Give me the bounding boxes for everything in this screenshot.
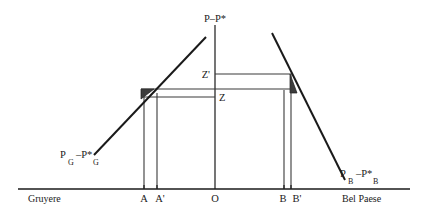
axis-title-label: P–P* xyxy=(204,13,226,24)
point-label-z: Z xyxy=(219,92,225,103)
region-label-bel-paese: Bel Paese xyxy=(342,193,382,204)
construction-lines xyxy=(141,74,291,189)
curve-label-belpaese-mid: –P* xyxy=(355,168,372,179)
curve-label-belpaese-sub1: B xyxy=(348,177,353,186)
curve-label-gruyere-sub2: G xyxy=(93,158,99,167)
curve-label-belpaese-sub2: B xyxy=(373,177,378,186)
curve-label-belpaese-main: P xyxy=(340,168,346,179)
curve-gruyere-line xyxy=(94,37,206,155)
point-label-z-prime: Z' xyxy=(202,69,210,80)
tick-label-B: B xyxy=(279,193,286,204)
curve-belpaese xyxy=(272,33,345,180)
curve-label-belpaese: P B –P* B xyxy=(340,168,378,186)
tick-label-O: O xyxy=(211,193,219,204)
curve-label-gruyere-main: P xyxy=(60,149,66,160)
tick-label-A-prime: A' xyxy=(155,193,165,204)
curve-label-gruyere-sub1: G xyxy=(68,158,74,167)
tick-label-B-prime: B' xyxy=(293,193,302,204)
curve-label-gruyere: P G –P* G xyxy=(60,149,99,167)
tick-label-A: A xyxy=(140,193,148,204)
region-label-gruyere: Gruyere xyxy=(28,193,61,204)
price-differential-diagram: P–P* Z' Z P G –P* G P B –P* B A A' O B B… xyxy=(0,0,428,219)
curve-label-gruyere-mid: –P* xyxy=(75,149,92,160)
curve-gruyere xyxy=(94,37,206,155)
curve-belpaese-line xyxy=(272,33,345,180)
